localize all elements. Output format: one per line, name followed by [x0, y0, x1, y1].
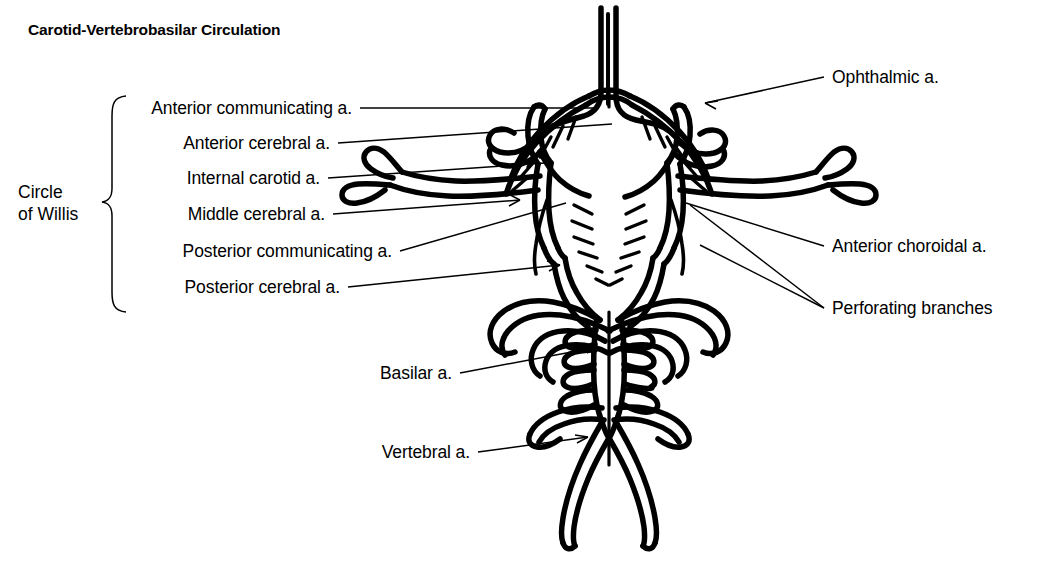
label-basilar-a: Basilar a.: [380, 364, 452, 382]
label-middle-cerebral-a: Middle cerebral a.: [188, 205, 325, 223]
label-anterior-communicating-a: Anterior communicating a.: [151, 99, 352, 117]
label-vertebral-a: Vertebral a.: [382, 443, 470, 461]
perforating-branches-posterior-left: [572, 205, 608, 285]
label-anterior-choroidal-a: Anterior choroidal a.: [832, 237, 987, 255]
middle-cerebral-tip-left: [342, 148, 402, 203]
middle-cerebral-tip-right: [816, 148, 876, 203]
vertebral-artery-left: [562, 422, 610, 549]
vertebral-artery-right: [609, 422, 657, 549]
label-anterior-cerebral-a: Anterior cerebral a.: [183, 134, 330, 152]
label-perforating-branches: Perforating branches: [832, 299, 992, 317]
label-posterior-cerebral-a: Posterior cerebral a.: [185, 278, 340, 296]
label-ophthalmic-a: Ophthalmic a.: [832, 68, 939, 86]
label-internal-carotid-a: Internal carotid a.: [187, 169, 320, 187]
figure-canvas: Carotid-Vertebrobasilar Circulation Circ…: [0, 0, 1045, 565]
label-posterior-communicating-a: Posterior communicating a.: [183, 242, 392, 260]
perforating-branches-posterior-right: [610, 205, 646, 285]
